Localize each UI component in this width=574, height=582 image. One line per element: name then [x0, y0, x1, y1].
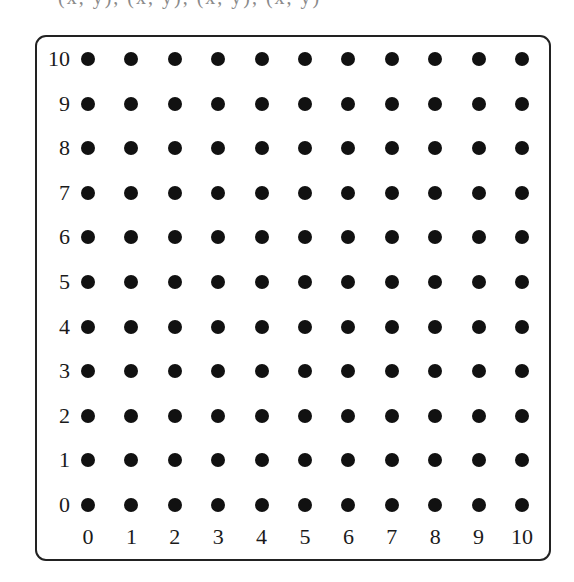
grid-point-dot [515, 364, 529, 378]
grid-point-dot [341, 186, 355, 200]
grid-point-dot [298, 498, 312, 512]
grid-point-dot [124, 52, 138, 66]
grid-point-dot [298, 186, 312, 200]
grid-point-dot [385, 230, 399, 244]
grid-point-dot [341, 230, 355, 244]
grid-point-dot [428, 141, 442, 155]
grid-point-dot [428, 498, 442, 512]
grid-point-dot [81, 320, 95, 334]
x-axis-label: 8 [430, 526, 441, 548]
grid-point-dot [385, 186, 399, 200]
grid-point-dot [428, 186, 442, 200]
x-axis-label: 7 [386, 526, 397, 548]
grid-point-dot [515, 141, 529, 155]
grid-point-dot [211, 409, 225, 423]
grid-point-dot [168, 230, 182, 244]
grid-point-dot [472, 230, 486, 244]
grid-point-dot [385, 364, 399, 378]
grid-point-dot [255, 453, 269, 467]
grid-point-dot [298, 141, 312, 155]
x-axis-label: 5 [300, 526, 311, 548]
grid-point-dot [255, 97, 269, 111]
grid-point-dot [81, 498, 95, 512]
grid-point-dot [255, 320, 269, 334]
x-axis-label: 6 [343, 526, 354, 548]
y-axis-label: 0 [59, 494, 70, 516]
grid-point-dot [472, 141, 486, 155]
grid-point-dot [168, 275, 182, 289]
y-axis-label: 9 [59, 93, 70, 115]
grid-point-dot [385, 409, 399, 423]
grid-point-dot [515, 409, 529, 423]
grid-point-dot [385, 320, 399, 334]
grid-point-dot [124, 320, 138, 334]
grid-point-dot [211, 52, 225, 66]
grid-point-dot [81, 230, 95, 244]
grid-point-dot [124, 498, 138, 512]
grid-point-dot [124, 275, 138, 289]
grid-point-dot [211, 230, 225, 244]
grid-point-dot [168, 409, 182, 423]
grid-point-dot [81, 97, 95, 111]
grid-point-dot [515, 186, 529, 200]
grid-point-dot [341, 364, 355, 378]
grid-point-dot [472, 186, 486, 200]
grid-point-dot [428, 275, 442, 289]
grid-point-dot [385, 141, 399, 155]
grid-point-dot [81, 275, 95, 289]
grid-point-dot [168, 52, 182, 66]
grid-point-dot [341, 409, 355, 423]
grid-point-dot [124, 230, 138, 244]
grid-point-dot [515, 52, 529, 66]
y-axis-label: 2 [59, 405, 70, 427]
grid-point-dot [255, 498, 269, 512]
grid-point-dot [211, 320, 225, 334]
grid-point-dot [428, 409, 442, 423]
grid-point-dot [168, 498, 182, 512]
grid-point-dot [124, 453, 138, 467]
grid-point-dot [211, 453, 225, 467]
grid-point-dot [341, 97, 355, 111]
grid-point-dot [298, 409, 312, 423]
grid-point-dot [81, 409, 95, 423]
grid-point-dot [341, 52, 355, 66]
y-axis-label: 8 [59, 137, 70, 159]
grid-point-dot [124, 409, 138, 423]
grid-point-dot [124, 186, 138, 200]
grid-point-dot [515, 97, 529, 111]
grid-point-dot [211, 498, 225, 512]
grid-point-dot [472, 52, 486, 66]
grid-point-dot [515, 320, 529, 334]
grid-point-dot [255, 364, 269, 378]
grid-point-dot [298, 275, 312, 289]
grid-point-dot [472, 453, 486, 467]
grid-point-dot [124, 97, 138, 111]
grid-point-dot [168, 141, 182, 155]
grid-point-dot [81, 141, 95, 155]
grid-point-dot [428, 52, 442, 66]
grid-point-dot [515, 498, 529, 512]
grid-point-dot [298, 320, 312, 334]
grid-point-dot [298, 230, 312, 244]
grid-point-dot [298, 52, 312, 66]
grid-point-dot [385, 498, 399, 512]
x-axis-label: 9 [473, 526, 484, 548]
grid-point-dot [385, 52, 399, 66]
grid-point-dot [472, 275, 486, 289]
grid-point-dot [168, 453, 182, 467]
y-axis-label: 1 [59, 449, 70, 471]
grid-point-dot [341, 141, 355, 155]
grid-point-dot [298, 97, 312, 111]
grid-point-dot [211, 275, 225, 289]
grid-point-dot [341, 320, 355, 334]
grid-point-dot [255, 141, 269, 155]
y-axis-label: 10 [48, 48, 70, 70]
grid-point-dot [81, 364, 95, 378]
grid-point-dot [168, 320, 182, 334]
grid-point-dot [211, 97, 225, 111]
x-axis-label: 1 [126, 526, 137, 548]
grid-point-dot [255, 52, 269, 66]
grid-point-dot [428, 97, 442, 111]
grid-point-dot [385, 453, 399, 467]
grid-point-dot [472, 320, 486, 334]
